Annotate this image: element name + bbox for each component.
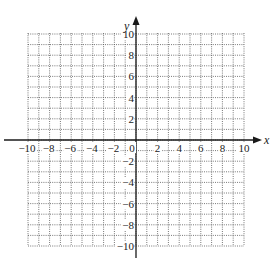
x-axis-label: x bbox=[263, 133, 270, 147]
coordinate-plane: −10−8−6−4−20246810 108642−2−4−6−8−10 x y bbox=[0, 0, 280, 274]
x-tick-label: 4 bbox=[176, 142, 182, 154]
y-tick-label: −4 bbox=[122, 176, 134, 188]
y-tick-label: 2 bbox=[129, 113, 135, 125]
x-tick-label: −2 bbox=[108, 142, 120, 154]
x-tick-label: 8 bbox=[220, 142, 226, 154]
y-tick-label: −6 bbox=[122, 198, 134, 210]
x-tick-label: −6 bbox=[64, 142, 76, 154]
y-tick-label: 8 bbox=[129, 49, 135, 61]
y-axis-label: y bbox=[123, 19, 130, 33]
x-tick-labels: −10−8−6−4−20246810 bbox=[17, 142, 251, 154]
x-tick-label: −8 bbox=[43, 142, 55, 154]
x-tick-label: −10 bbox=[18, 142, 36, 154]
x-tick-label: 2 bbox=[155, 142, 161, 154]
y-tick-label: −10 bbox=[117, 240, 135, 252]
x-tick-label: −4 bbox=[86, 142, 98, 154]
x-tick-label: 10 bbox=[239, 142, 251, 154]
x-tick-label: 6 bbox=[198, 142, 204, 154]
y-tick-label: 4 bbox=[129, 92, 135, 104]
x-tick-label: 0 bbox=[129, 142, 135, 154]
y-tick-label: 6 bbox=[129, 70, 135, 82]
y-axis-arrow-icon bbox=[133, 16, 140, 25]
y-tick-label: −8 bbox=[122, 219, 134, 231]
y-tick-label: −2 bbox=[122, 155, 134, 167]
x-axis-arrow-icon bbox=[253, 137, 262, 144]
